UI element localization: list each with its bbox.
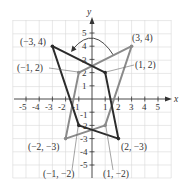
axes: x y -5 -4 -3 -2 -1 1 2 3 4 5 5 4 3 2 1 -…: [14, 7, 179, 178]
svg-text:1: 1: [103, 102, 108, 112]
label-neg1-neg2: (−1, −2): [43, 169, 74, 180]
svg-text:1: 1: [82, 81, 87, 91]
svg-text:2: 2: [116, 102, 121, 112]
svg-text:5: 5: [156, 102, 161, 112]
svg-text:4: 4: [82, 41, 87, 51]
label-1-2: (1, 2): [135, 60, 156, 71]
svg-text:-2: -2: [58, 102, 66, 112]
label-1-neg2: (1, −2): [103, 169, 129, 180]
leader-lines: [49, 65, 134, 170]
label-neg1-2: (−1, 2): [17, 63, 43, 74]
svg-text:4: 4: [142, 102, 147, 112]
svg-text:-1: -1: [80, 110, 88, 120]
svg-text:3: 3: [129, 102, 134, 112]
svg-text:5: 5: [82, 28, 87, 38]
reflection-diagram: x y -5 -4 -3 -2 -1 1 2 3 4 5 5 4 3 2 1 -…: [0, 0, 183, 183]
svg-text:-3: -3: [45, 102, 53, 112]
svg-text:-5: -5: [19, 102, 27, 112]
svg-text:-5: -5: [80, 160, 88, 170]
label-3-4: (3, 4): [132, 33, 153, 44]
x-tick-labels: -5 -4 -3 -2 -1 1 2 3 4 5: [19, 102, 161, 112]
svg-text:-4: -4: [80, 147, 88, 157]
svg-text:-3: -3: [80, 134, 88, 144]
label-2-neg3: (2, −3): [121, 142, 147, 153]
svg-text:-4: -4: [32, 102, 40, 112]
x-axis-label: x: [173, 94, 179, 104]
y-axis-label: y: [86, 7, 92, 17]
label-neg3-4: (−3, 4): [20, 37, 46, 48]
label-neg2-neg3: (−2, −3): [28, 142, 59, 153]
